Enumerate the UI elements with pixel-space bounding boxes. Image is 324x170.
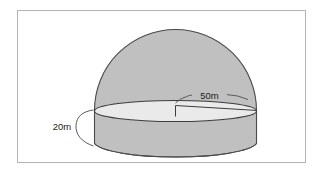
height-label-text: 20m xyxy=(53,121,72,132)
figure-root: 50m 20m xyxy=(0,0,324,170)
dome-hemisphere xyxy=(95,29,257,110)
height-brace xyxy=(76,110,94,146)
geometry-diagram: 50m 20m xyxy=(0,0,324,170)
radius-label-text: 50m xyxy=(200,90,219,101)
